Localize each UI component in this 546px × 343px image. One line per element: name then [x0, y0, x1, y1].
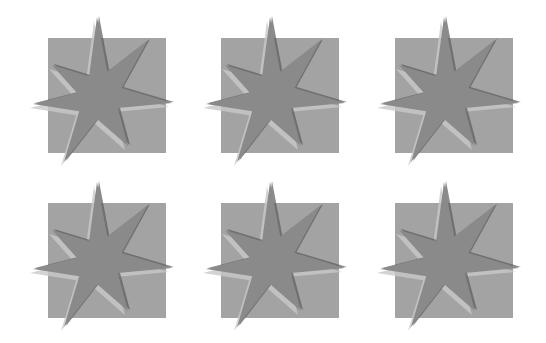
star-square-graphic: [375, 13, 535, 173]
star-square-graphic: [375, 178, 535, 338]
star-tile: [375, 178, 535, 338]
star-square-graphic: [28, 13, 188, 173]
star-tile: [201, 178, 361, 338]
star-square-graphic: [201, 178, 361, 338]
star-square-graphic: [201, 13, 361, 173]
star-tile: [28, 13, 188, 173]
star-tile: [375, 13, 535, 173]
star-tile: [28, 178, 188, 338]
star-tile: [201, 13, 361, 173]
star-square-graphic: [28, 178, 188, 338]
